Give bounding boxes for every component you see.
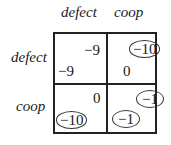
payoff-col-player-dc-circled: −10 [129,40,160,58]
payoff-row-player-dd: −9 [58,63,74,80]
payoff-row-player-cc-circled: −1 [112,110,140,128]
grid-divider-horizontal [55,83,155,85]
row-header-defect: defect [11,49,47,66]
payoff-col-player-cc-circled: −1 [136,90,164,108]
payoff-col-player-dd: −9 [84,42,100,59]
row-header-coop: coop [16,98,45,115]
payoff-row-player-dc: 0 [123,63,131,80]
payoff-col-player-cd: 0 [93,90,101,107]
payoff-row-player-cd-circled: −10 [56,111,87,129]
payoff-grid: −9 −9 −10 0 0 −10 −1 −1 [53,32,157,134]
col-header-defect: defect [61,4,97,21]
col-header-coop: coop [114,4,143,21]
